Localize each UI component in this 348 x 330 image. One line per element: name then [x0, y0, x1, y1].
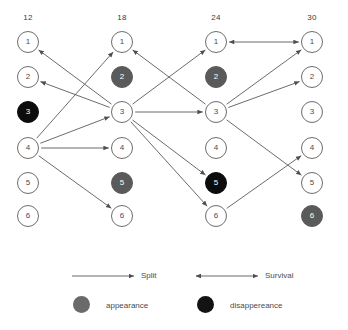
node-label: 6	[310, 212, 314, 220]
node-label: 1	[120, 38, 124, 46]
legend-arrows	[0, 262, 348, 330]
node-t18-1[interactable]: 1	[111, 31, 133, 53]
node-t24-2[interactable]: 2	[205, 66, 227, 88]
node-label: 6	[26, 212, 30, 220]
node-t24-3[interactable]: 3	[205, 101, 227, 123]
node-t30-6[interactable]: 6	[301, 205, 323, 227]
edge-split-12_4-to-18_3	[40, 117, 109, 144]
edge-split-12_4-to-18_1	[37, 52, 113, 138]
node-label: 6	[214, 212, 218, 220]
column-label-3: 30	[292, 13, 332, 22]
column-label-text: 18	[117, 13, 126, 22]
node-t18-4[interactable]: 4	[111, 137, 133, 159]
node-t30-5[interactable]: 5	[301, 172, 323, 194]
node-label: 6	[120, 212, 124, 220]
node-t24-5[interactable]: 5	[205, 172, 227, 194]
node-t12-1[interactable]: 1	[17, 31, 39, 53]
legend-disappearance-swatch	[197, 296, 214, 313]
node-label: 3	[310, 108, 314, 116]
node-label: 3	[120, 108, 124, 116]
node-t24-4[interactable]: 4	[205, 137, 227, 159]
node-label: 2	[310, 73, 314, 81]
node-label: 4	[26, 144, 30, 152]
node-label: 5	[120, 179, 124, 187]
edge-split-24_6-to-30_4	[227, 156, 301, 209]
column-label-text: 30	[307, 13, 316, 22]
node-t18-6[interactable]: 6	[111, 205, 133, 227]
node-label: 2	[26, 73, 30, 81]
node-t30-4[interactable]: 4	[301, 137, 323, 159]
node-label: 1	[310, 38, 314, 46]
node-label: 4	[214, 144, 218, 152]
node-label: 2	[214, 73, 218, 81]
column-label-0: 12	[8, 13, 48, 22]
edge-split-18_3-to-24_5	[133, 120, 206, 175]
legend-appearance-swatch	[73, 296, 90, 313]
edge-split-24_3-to-30_1	[227, 50, 302, 104]
diagram-canvas: 12 18 24 30 123456123456123456123456 Spl…	[0, 0, 348, 330]
column-label-text: 24	[211, 13, 220, 22]
node-t24-6[interactable]: 6	[205, 205, 227, 227]
edge-split-18_3-to-12_1	[39, 50, 112, 104]
column-label-text: 12	[23, 13, 32, 22]
node-t12-3[interactable]: 3	[17, 101, 39, 123]
node-label: 5	[214, 179, 218, 187]
node-t12-2[interactable]: 2	[17, 66, 39, 88]
node-t18-5[interactable]: 5	[111, 172, 133, 194]
node-t18-2[interactable]: 2	[111, 66, 133, 88]
node-t12-6[interactable]: 6	[17, 205, 39, 227]
node-label: 3	[26, 108, 30, 116]
column-label-2: 24	[196, 13, 236, 22]
node-t30-3[interactable]: 3	[301, 101, 323, 123]
node-t24-1[interactable]: 1	[205, 31, 227, 53]
edge-split-24_3-to-30_2	[228, 82, 299, 108]
node-t12-5[interactable]: 5	[17, 172, 39, 194]
legend-disappearance-label: disappereance	[230, 301, 282, 310]
column-label-1: 18	[102, 13, 142, 22]
node-label: 3	[214, 108, 218, 116]
node-label: 5	[26, 179, 30, 187]
node-t30-1[interactable]: 1	[301, 31, 323, 53]
edge-split-12_4-to-18_6	[39, 156, 112, 209]
legend-split-label: Split	[141, 271, 157, 280]
node-label: 1	[214, 38, 218, 46]
node-label: 4	[120, 144, 124, 152]
legend: Split Survival appearance disappereance	[0, 262, 348, 330]
node-label: 5	[310, 179, 314, 187]
node-label: 1	[26, 38, 30, 46]
edge-split-18_3-to-24_6	[131, 122, 207, 206]
legend-appearance-label: appearance	[106, 301, 148, 310]
node-t18-3[interactable]: 3	[111, 101, 133, 123]
node-label: 4	[310, 144, 314, 152]
edge-split-24_3-to-30_5	[227, 120, 302, 175]
legend-survival-label: Survival	[265, 271, 293, 280]
node-label: 2	[120, 73, 124, 81]
node-t12-4[interactable]: 4	[17, 137, 39, 159]
node-t30-2[interactable]: 2	[301, 66, 323, 88]
